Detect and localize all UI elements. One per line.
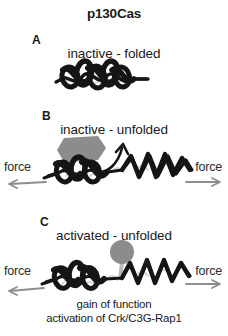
figure-p130cas: p130Cas A inactive - folded	[0, 0, 228, 336]
annotation-line-1: gain of function	[0, 298, 228, 310]
background-ghost-strands	[66, 164, 172, 178]
figure-title: p130Cas	[0, 6, 228, 21]
annotation-line-2: activation of Crk/C3G-Rap1	[0, 312, 228, 324]
force-arrow-left-icon	[9, 287, 44, 295]
force-arrow-right-icon	[186, 178, 220, 186]
panel-a-caption: inactive - folded	[0, 46, 228, 61]
panel-b-caption: inactive - unfolded	[0, 122, 228, 137]
panel-b: B inactive - unfolded force force SFK	[0, 110, 228, 210]
panel-a-letter: A	[32, 34, 41, 46]
force-arrow-left-icon	[9, 180, 46, 188]
activated-protein-chain-icon	[42, 260, 190, 290]
panel-c-force-right-label: force	[195, 264, 222, 278]
panel-b-force-left-label: force	[4, 160, 31, 174]
force-arrow-right-icon	[186, 280, 220, 288]
panel-c-force-left-label: force	[4, 264, 31, 278]
unfolding-curved-arrow-icon	[100, 144, 128, 172]
panel-c-letter: C	[40, 216, 49, 228]
panel-c-caption: activated - unfolded	[0, 228, 228, 243]
panel-b-letter: B	[42, 110, 51, 122]
folded-protein-coil-icon	[56, 60, 148, 89]
phospho-badge-label: P	[117, 246, 126, 260]
panel-b-force-right-label: force	[195, 160, 222, 174]
background-ghost-strands	[62, 270, 170, 286]
sfk-badge-label: SFK	[69, 142, 91, 154]
unfolded-protein-chain-icon	[44, 154, 192, 184]
panel-a: A inactive - folded	[0, 32, 228, 104]
